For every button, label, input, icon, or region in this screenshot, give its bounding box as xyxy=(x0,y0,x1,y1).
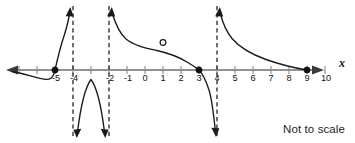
x-axis-tick-labels: -5 -4 -2 -1 0 1 2 3 4 5 6 7 8 9 10 xyxy=(52,73,331,83)
tick-label-neg2: -2 xyxy=(106,73,114,83)
closed-point-neg5-0 xyxy=(52,67,58,73)
closed-point-3-0 xyxy=(196,67,202,73)
closed-point-9-0 xyxy=(304,67,310,73)
x-axis-label: x xyxy=(338,56,345,70)
tick-label-9: 9 xyxy=(304,73,309,83)
tick-label-10: 10 xyxy=(321,73,331,83)
tick-label-2: 2 xyxy=(178,73,183,83)
curve-arrow-branch2-down-left xyxy=(73,129,81,138)
not-to-scale-note: Not to scale xyxy=(283,123,345,135)
curve-branch-right-of-4 xyxy=(221,14,308,70)
tick-label-7: 7 xyxy=(268,73,273,83)
tick-label-neg4: -4 xyxy=(70,73,78,83)
curve-arrow-branch2-down-right xyxy=(101,129,109,138)
function-graph: -5 -4 -2 -1 0 1 2 3 4 5 6 7 8 9 10 x xyxy=(0,0,355,143)
tick-label-3: 3 xyxy=(196,73,201,83)
tick-label-0: 0 xyxy=(142,73,147,83)
curve-arrow-branch3-down xyxy=(211,128,219,137)
open-point-1 xyxy=(160,40,166,46)
x-axis-arrow-left xyxy=(6,66,18,75)
tick-label-5: 5 xyxy=(232,73,237,83)
tick-label-6: 6 xyxy=(250,73,255,83)
curve-branch-between-neg4-neg2 xyxy=(78,80,105,133)
tick-label-8: 8 xyxy=(286,73,291,83)
graph-figure: -5 -4 -2 -1 0 1 2 3 4 5 6 7 8 9 10 x xyxy=(0,0,355,143)
tick-label-1: 1 xyxy=(160,73,165,83)
tick-label-neg1: -1 xyxy=(124,73,132,83)
